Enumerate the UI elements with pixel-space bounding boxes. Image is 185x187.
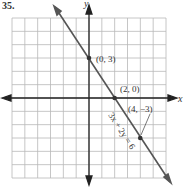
problem-number: 35.: [2, 0, 15, 11]
point-2-0: [112, 96, 117, 101]
point-4-neg3: [138, 136, 143, 141]
point-label-2-0: (2, 0): [120, 84, 140, 94]
point-label-0-3: (0, 3): [96, 54, 116, 64]
y-axis: [86, 5, 92, 185]
y-axis-label: y: [83, 0, 89, 9]
point-label-4-neg3: (4, −3): [128, 104, 153, 114]
equation-label: 3x + 2y = 6: [106, 111, 137, 152]
x-axis-label: x: [177, 93, 183, 104]
point-0-3: [87, 56, 92, 61]
coordinate-graph: 35. y x (0, 3) (2, 0) (4, −3) 3x + 2y = …: [0, 0, 185, 187]
